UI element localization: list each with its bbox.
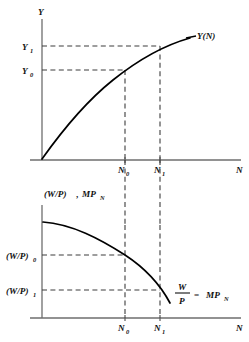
economics-figure: Y N Y 1 Y 0 N 0 N 1 Y(N)	[0, 0, 249, 342]
bottom-wp1-sub: 1	[33, 291, 36, 298]
bottom-y-axis-label-comma: ,	[76, 189, 78, 199]
top-y-tick-label-y0: Y 0	[22, 66, 34, 78]
production-function-curve	[42, 38, 190, 159]
bottom-y-axis-label-mp-sub: N	[99, 194, 105, 201]
bottom-x-tick-label-n1: N 1	[153, 323, 165, 335]
bottom-y-tick-label-wp1: (W/P) 1	[6, 286, 36, 298]
top-n1-sub: 1	[162, 170, 165, 177]
top-x-tick-label-n1: N 1	[153, 165, 165, 177]
top-x-tick-label-n0: N 0	[117, 165, 130, 177]
top-n0-base: N	[117, 165, 125, 175]
top-n0-sub: 0	[126, 170, 130, 177]
mp-label-denominator: P	[179, 296, 185, 306]
top-y0-base: Y	[22, 66, 29, 76]
top-y-tick-label-y1: Y 1	[22, 42, 33, 54]
mp-label-numerator: W	[178, 282, 187, 292]
top-y1-sub: 1	[30, 47, 33, 54]
bottom-y-tick-label-wp0: (W/P) 0	[6, 251, 37, 263]
top-y0-sub: 0	[30, 71, 34, 78]
bottom-wp1-base: (W/P)	[6, 286, 28, 296]
bottom-n1-base: N	[153, 323, 161, 333]
top-y1-base: Y	[22, 42, 29, 52]
production-function-chart: Y N Y 1 Y 0 N 0 N 1 Y(N)	[22, 7, 243, 177]
top-curve-leader	[186, 36, 196, 38]
mp-label-equals: =	[194, 290, 199, 300]
bottom-x-tick-label-n0: N 0	[117, 323, 130, 335]
bottom-x-axis-label: N	[235, 323, 243, 333]
bottom-n1-sub: 1	[162, 328, 165, 335]
marginal-product-curve-label: W P = MP N	[175, 282, 229, 306]
bottom-n0-sub: 0	[126, 328, 130, 335]
bottom-y-axis-label-paren: (W/P)	[44, 189, 66, 199]
figure-canvas: Y N Y 1 Y 0 N 0 N 1 Y(N)	[0, 0, 249, 342]
mp-label-mp: MP	[205, 290, 220, 300]
bottom-y-axis-label-mp: MP	[81, 189, 96, 199]
mp-label-mp-sub: N	[223, 295, 229, 302]
production-function-curve-label: Y(N)	[197, 31, 215, 41]
marginal-product-curve	[43, 222, 170, 303]
bottom-wp0-base: (W/P)	[6, 251, 28, 261]
bottom-y-axis-label: (W/P) , MP N	[44, 189, 105, 201]
bottom-wp0-sub: 0	[33, 256, 37, 263]
top-y-axis-label: Y	[38, 7, 45, 17]
top-x-axis-label: N	[235, 165, 243, 175]
bottom-n0-base: N	[117, 323, 125, 333]
